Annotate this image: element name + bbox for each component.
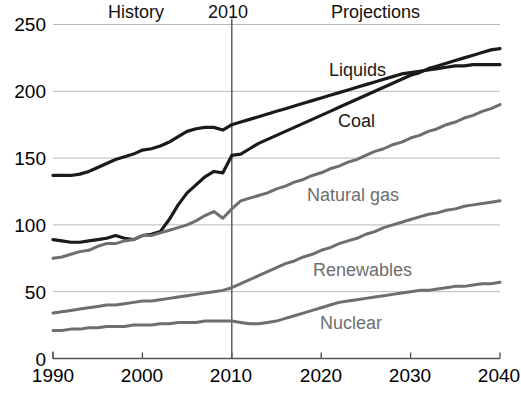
annotation-projections: Projections <box>331 3 420 21</box>
x-axis-tick-2010: 2010 <box>196 366 266 385</box>
series-label-renewables: Renewables <box>313 261 412 279</box>
y-axis-tick-150: 150 <box>2 149 46 168</box>
x-axis-tick-2020: 2020 <box>286 366 356 385</box>
series-label-natural-gas: Natural gas <box>307 186 399 204</box>
series-line-natural-gas <box>53 105 500 259</box>
series-line-nuclear <box>53 282 500 330</box>
y-axis-tick-200: 200 <box>2 82 46 101</box>
y-axis-tick-250: 250 <box>2 15 46 34</box>
series-label-liquids: Liquids <box>329 61 386 79</box>
chart-plot-area <box>0 0 521 397</box>
series-line-renewables <box>53 201 500 313</box>
annotation-history: History <box>108 3 164 21</box>
energy-consumption-line-chart: 250 200 150 100 50 0 1990 2000 2010 2020… <box>0 0 521 397</box>
annotation-divider-year: 2010 <box>208 3 248 21</box>
x-axis-tick-2000: 2000 <box>107 366 177 385</box>
y-axis-tick-100: 100 <box>2 216 46 235</box>
x-axis-tick-2040: 2040 <box>464 366 521 385</box>
y-axis-tick-50: 50 <box>2 283 46 302</box>
x-axis-tick-2030: 2030 <box>375 366 445 385</box>
x-axis-tick-1990: 1990 <box>18 366 88 385</box>
series-label-nuclear: Nuclear <box>320 314 382 332</box>
series-line-liquids <box>53 65 500 176</box>
axes-group <box>53 352 500 359</box>
series-label-coal: Coal <box>338 112 375 130</box>
